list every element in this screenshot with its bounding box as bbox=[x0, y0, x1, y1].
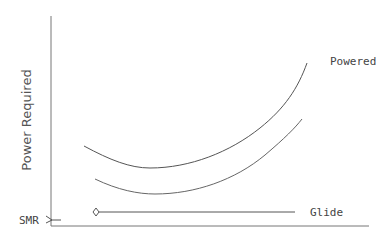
glide-label: Glide bbox=[310, 206, 343, 219]
y-axis-label: Power Required bbox=[19, 69, 34, 170]
smr-label: SMR bbox=[19, 214, 39, 227]
lower-curve bbox=[95, 119, 302, 194]
diamond-marker-icon bbox=[93, 208, 99, 216]
powered-label: Powered bbox=[330, 55, 376, 68]
powered-curve bbox=[84, 63, 307, 168]
